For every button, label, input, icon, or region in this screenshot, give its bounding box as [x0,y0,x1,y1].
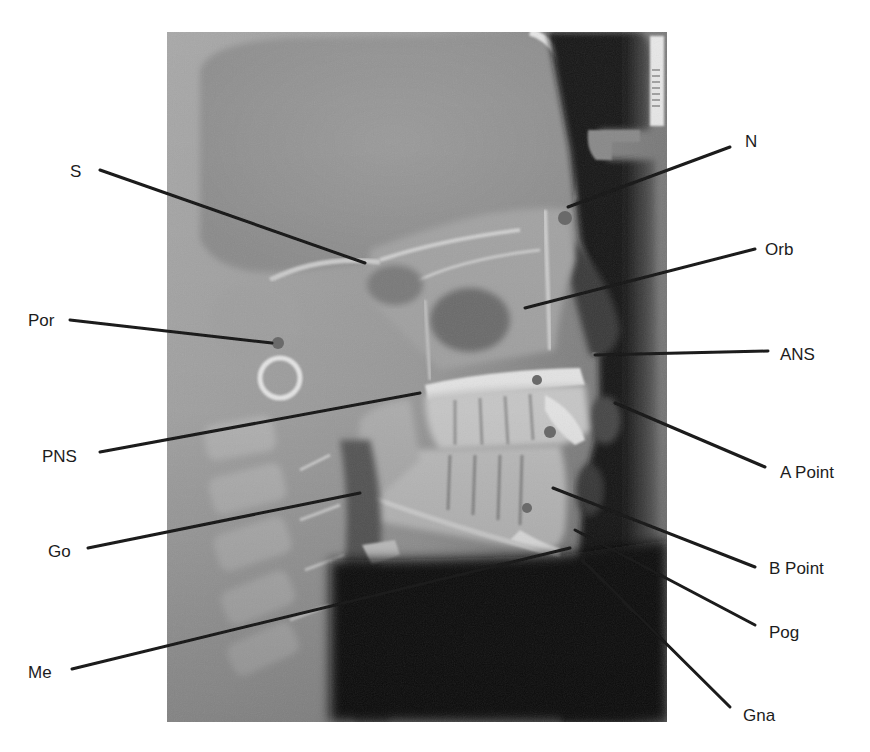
b-point-dot [522,503,532,513]
upper-incisor-dot [544,426,556,438]
label-me: Me [28,664,52,681]
nasion-dot [558,211,572,225]
cephalometric-figure [0,0,870,752]
label-b-point: B Point [769,560,824,577]
porion-dot [272,337,284,349]
radiograph [167,32,667,722]
label-por: Por [28,312,54,329]
label-orb: Orb [765,241,793,258]
label-n: N [745,133,757,150]
label-pns: PNS [42,448,77,465]
label-pog: Pog [769,624,799,641]
label-a-point: A Point [780,464,834,481]
label-ans: ANS [780,346,815,363]
label-gna: Gna [743,707,775,724]
label-go: Go [48,543,71,560]
label-s: S [70,163,81,180]
a-point-dot [532,375,542,385]
